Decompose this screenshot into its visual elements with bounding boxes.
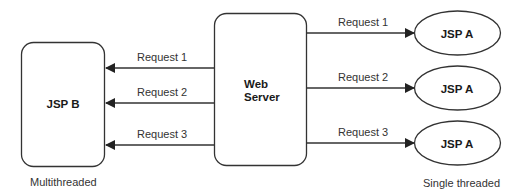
jsp-threading-diagram: JSP B Web Server Request 1 Request 2 Req… xyxy=(0,0,522,193)
single-request-1-label: Request 1 xyxy=(338,16,388,28)
single-threaded-caption: Single threaded xyxy=(423,177,500,189)
multithreaded-request-1-label: Request 1 xyxy=(137,51,187,63)
web-server-label-line2: Server xyxy=(244,91,280,104)
web-server-label-line1: Web xyxy=(244,78,280,91)
single-request-3-label: Request 3 xyxy=(338,126,388,138)
multithreaded-request-3-label: Request 3 xyxy=(137,128,187,140)
jsp-a-label-3: JSP A xyxy=(441,138,474,150)
jsp-b-label: JSP B xyxy=(46,98,79,110)
single-request-2-label: Request 2 xyxy=(338,71,388,83)
web-server-label: Web Server xyxy=(244,78,280,104)
jsp-a-label-1: JSP A xyxy=(441,28,474,40)
multithreaded-request-2-label: Request 2 xyxy=(137,86,187,98)
jsp-a-label-2: JSP A xyxy=(441,83,474,95)
multithreaded-caption: Multithreaded xyxy=(30,176,97,188)
